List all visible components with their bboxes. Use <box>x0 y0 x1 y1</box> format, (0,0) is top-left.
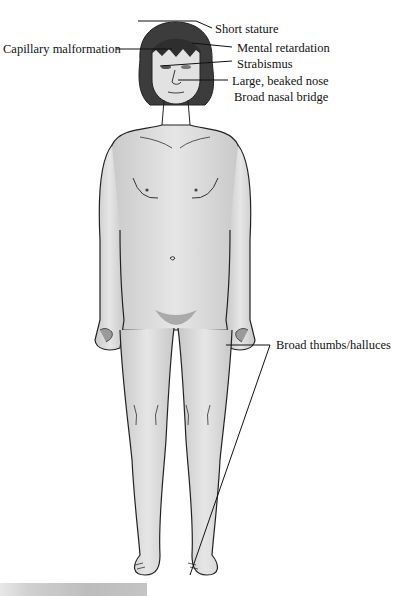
label-beaked-nose: Large, beaked nose <box>232 74 329 88</box>
label-capillary-malformation: Capillary malformation <box>3 42 121 56</box>
right-eye <box>181 65 191 69</box>
label-broad-thumbs: Broad thumbs/halluces <box>276 338 391 352</box>
label-broad-nasal-bridge: Broad nasal bridge <box>234 90 328 104</box>
left-leg <box>120 328 174 575</box>
body-illustration <box>0 0 400 596</box>
torso <box>108 125 242 330</box>
label-mental-retardation: Mental retardation <box>237 41 330 55</box>
cropped-image-strip <box>0 583 147 596</box>
right-leg <box>178 328 232 575</box>
label-short-stature: Short stature <box>215 22 279 36</box>
label-strabismus: Strabismus <box>237 57 293 71</box>
